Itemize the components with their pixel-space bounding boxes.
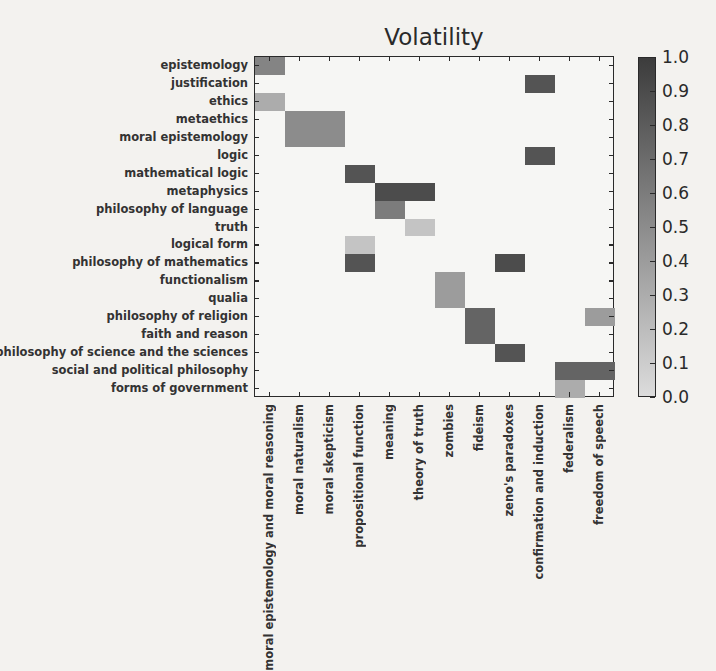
x-tick-mark [269,56,270,61]
y-tick-mark [609,298,614,299]
y-tick-mark [254,262,259,263]
y-tick-mark [609,65,614,66]
heatmap-cell [345,236,375,254]
heatmap-cell [495,344,525,362]
y-tick-mark [254,191,259,192]
y-tick-mark [254,209,259,210]
colorbar-tick-label: 0.4 [662,252,689,270]
x-tick-label: zeno's paradoxes [502,404,516,517]
colorbar-tick-mark [650,57,655,58]
x-tick-mark [509,392,510,397]
x-tick-mark [419,56,420,61]
y-tick-mark [609,155,614,156]
x-tick-label: theory of truth [412,404,426,501]
y-tick-label: forms of government [111,381,248,395]
y-tick-label: qualia [208,291,248,305]
x-tick-mark [269,392,270,397]
x-tick-mark [449,392,450,397]
y-tick-mark [609,370,614,371]
x-tick-mark [599,392,600,397]
colorbar-tick-mark [650,159,655,160]
y-tick-mark [254,101,259,102]
x-tick-label: meaning [382,404,396,460]
y-tick-mark [254,65,259,66]
heatmap-cell [465,308,495,326]
heatmap-cell [375,201,405,219]
x-tick-label: freedom of speech [592,404,606,525]
colorbar-tick-mark [650,295,655,296]
y-tick-mark [254,370,259,371]
colorbar-tick-mark [650,125,655,126]
x-tick-mark [389,56,390,61]
heatmap-cell [555,362,585,380]
colorbar-tick-label: 0.6 [662,184,689,202]
colorbar-tick-label: 0.1 [662,354,689,372]
heatmap-cell [315,111,345,129]
y-tick-mark [254,119,259,120]
heatmap-cell [525,75,555,93]
y-tick-label: logical form [171,237,248,251]
heatmap-cell [285,111,315,129]
x-tick-label: propositional function [352,404,366,548]
y-tick-label: ethics [209,94,248,108]
colorbar-tick-label: 0.2 [662,320,689,338]
colorbar-tick-label: 0.5 [662,218,689,236]
heatmap-cell [435,272,465,290]
y-tick-mark [254,173,259,174]
colorbar-tick-label: 0.3 [662,286,689,304]
y-tick-mark [609,352,614,353]
x-tick-mark [359,392,360,397]
y-tick-label: philosophy of science and the sciences [0,345,248,359]
y-tick-mark [609,137,614,138]
x-tick-label: moral skepticism [322,404,336,515]
y-tick-label: logic [217,148,248,162]
colorbar-tick-mark [650,91,655,92]
heatmap-cell [495,254,525,272]
y-tick-label: philosophy of religion [107,309,248,323]
y-tick-label: metaethics [176,112,248,126]
colorbar-tick-mark [650,363,655,364]
x-tick-mark [419,392,420,397]
x-tick-mark [299,392,300,397]
x-tick-label: fideism [472,404,486,451]
chart-title: Volatility [254,24,614,50]
y-tick-mark [609,209,614,210]
y-tick-mark [254,316,259,317]
x-tick-mark [329,392,330,397]
y-tick-mark [609,262,614,263]
colorbar-tick-mark [650,329,655,330]
y-tick-mark [609,227,614,228]
y-tick-mark [254,334,259,335]
colorbar-tick-mark [650,397,655,398]
y-tick-label: justification [171,76,248,90]
y-tick-label: social and political philosophy [52,363,248,377]
heatmap-cell [405,219,435,237]
colorbar-tick-mark [650,227,655,228]
y-tick-label: philosophy of mathematics [72,255,248,269]
x-tick-mark [329,56,330,61]
colorbar-tick-mark [650,261,655,262]
x-tick-mark [539,392,540,397]
heatmap-cell [405,183,435,201]
y-tick-label: moral epistemology [119,130,248,144]
y-tick-mark [609,191,614,192]
colorbar-tick-label: 0.8 [662,116,689,134]
colorbar-tick-label: 1.0 [662,48,689,66]
y-tick-mark [609,101,614,102]
y-tick-mark [609,119,614,120]
x-tick-mark [599,56,600,61]
y-tick-mark [254,155,259,156]
colorbar-tick-label: 0.0 [662,388,689,406]
x-tick-mark [449,56,450,61]
y-tick-mark [609,388,614,389]
x-tick-label: moral epistemology and moral reasoning [262,404,276,671]
x-tick-mark [299,56,300,61]
y-tick-mark [609,316,614,317]
x-tick-mark [389,392,390,397]
y-tick-mark [254,280,259,281]
y-tick-mark [254,227,259,228]
x-tick-mark [569,392,570,397]
x-tick-mark [479,56,480,61]
heatmap-cell [345,165,375,183]
y-tick-mark [609,83,614,84]
